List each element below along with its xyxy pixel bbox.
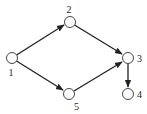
node-5-label: 5	[74, 101, 79, 112]
node-2	[65, 17, 76, 28]
node-3	[123, 53, 134, 64]
edge-1-5	[17, 61, 64, 90]
node-1	[7, 53, 18, 64]
node-4	[123, 89, 134, 100]
edge-1-2	[17, 25, 65, 55]
graph-diagram: 1 2 3 4 5	[0, 0, 147, 114]
edge-2-3	[75, 25, 123, 54]
node-5	[64, 89, 75, 100]
node-1-label: 1	[9, 67, 14, 78]
node-2-label: 2	[67, 4, 72, 15]
edge-5-3	[74, 62, 122, 91]
node-3-label: 3	[137, 53, 142, 64]
node-4-label: 4	[137, 89, 142, 100]
